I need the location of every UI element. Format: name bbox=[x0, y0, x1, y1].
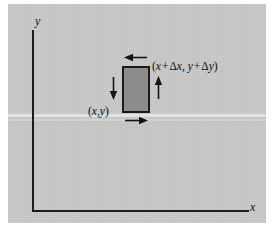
paper-background bbox=[8, 4, 266, 223]
left-face-flux-arrow bbox=[109, 76, 118, 100]
control-volume-rectangle bbox=[122, 66, 150, 113]
bottom-face-flux-arrow bbox=[124, 116, 148, 125]
y-axis-label: y bbox=[35, 14, 40, 29]
top-face-flux-arrow bbox=[124, 53, 148, 62]
lower-left-corner-label: (x,y) bbox=[88, 106, 109, 118]
upper-right-corner-label: (x+Δx, y+Δy) bbox=[152, 61, 218, 73]
label-comma: , bbox=[182, 60, 185, 72]
x-axis-label: x bbox=[250, 200, 255, 215]
x-axis-line bbox=[32, 210, 249, 212]
label-close-paren: ) bbox=[214, 60, 218, 72]
label-close-paren: ) bbox=[105, 105, 109, 117]
figure-canvas: y x (x,y) (x+Δx, y+Δy) bbox=[0, 0, 274, 231]
right-face-flux-arrow bbox=[154, 76, 163, 100]
label-delta-x-symbol: Δ bbox=[169, 60, 176, 72]
label-delta-y-symbol: Δ bbox=[201, 60, 208, 72]
y-axis-line bbox=[32, 30, 34, 212]
scan-noise-overlay bbox=[8, 4, 266, 223]
